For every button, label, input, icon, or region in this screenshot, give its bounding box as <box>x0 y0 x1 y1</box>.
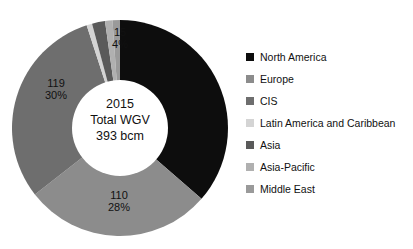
legend-label-middle-east: Middle East <box>260 183 315 195</box>
data-label-europe-value: 110 <box>94 189 144 201</box>
center-label-year: 2015 <box>70 96 170 112</box>
data-label-europe: 110 28% <box>94 189 144 213</box>
legend-label-latin-america-and-caribbean: Latin America and Caribbean <box>260 117 395 129</box>
data-label-europe-percent: 28% <box>94 201 144 213</box>
legend-item-europe[interactable]: Europe <box>246 68 413 90</box>
legend-label-north-america: North America <box>260 51 327 63</box>
legend-swatch-asia-pacific <box>246 163 254 171</box>
legend-swatch-europe <box>246 75 254 83</box>
legend-item-middle-east[interactable]: Middle East <box>246 178 413 200</box>
legend-label-europe: Europe <box>260 73 294 85</box>
legend-swatch-latin-america-and-caribbean <box>246 119 254 127</box>
donut-plot-area: 119 30% 110 28% 15 4% 2015 Total WGV 393… <box>0 0 250 249</box>
legend-label-asia: Asia <box>260 139 280 151</box>
legend-swatch-north-america <box>246 53 254 61</box>
legend-item-north-america[interactable]: North America <box>246 46 413 68</box>
legend-swatch-asia <box>246 141 254 149</box>
legend-item-latin-america-and-caribbean[interactable]: Latin America and Caribbean <box>246 112 413 134</box>
legend-swatch-cis <box>246 97 254 105</box>
chart-legend: North AmericaEuropeCISLatin America and … <box>246 46 413 200</box>
legend-item-cis[interactable]: CIS <box>246 90 413 112</box>
legend-swatch-middle-east <box>246 185 254 193</box>
data-label-asia-value: 15 <box>100 26 140 38</box>
donut-chart-figure: 119 30% 110 28% 15 4% 2015 Total WGV 393… <box>0 0 413 249</box>
data-label-asia-percent: 4% <box>100 38 140 50</box>
donut-center-label: 2015 Total WGV 393 bcm <box>70 96 170 144</box>
legend-item-asia-pacific[interactable]: Asia-Pacific <box>246 156 413 178</box>
legend-label-cis: CIS <box>260 95 278 107</box>
center-label-title: Total WGV <box>70 112 170 128</box>
legend-item-asia[interactable]: Asia <box>246 134 413 156</box>
data-label-asia: 15 4% <box>100 26 140 50</box>
legend-label-asia-pacific: Asia-Pacific <box>260 161 315 173</box>
center-label-total: 393 bcm <box>70 128 170 144</box>
data-label-cis-value: 119 <box>33 77 79 89</box>
